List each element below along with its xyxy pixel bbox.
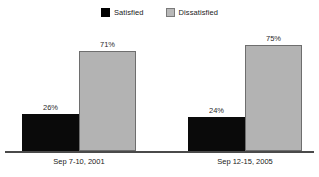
bar-value-satisfied-2005: 24% (188, 106, 245, 115)
plot-area: 26% 71% 24% 75% Sep 7-10, 2001 Sep 12-15… (0, 0, 319, 177)
bar-value-dissatisfied-2001: 71% (79, 40, 136, 49)
bar-satisfied-2001 (22, 114, 79, 151)
bar-satisfied-2005 (188, 117, 245, 151)
bar-dissatisfied-2001 (79, 51, 136, 151)
x-axis-label-2005: Sep 12-15, 2005 (188, 157, 302, 167)
bar-value-dissatisfied-2005: 75% (245, 34, 302, 43)
bar-value-satisfied-2001: 26% (22, 103, 79, 112)
bar-chart: Satisfied Dissatisfied 26% 71% 24% 75% S… (0, 0, 319, 177)
bar-dissatisfied-2005 (245, 45, 302, 151)
x-axis-baseline (5, 151, 314, 153)
x-axis-label-2001: Sep 7-10, 2001 (22, 157, 136, 167)
